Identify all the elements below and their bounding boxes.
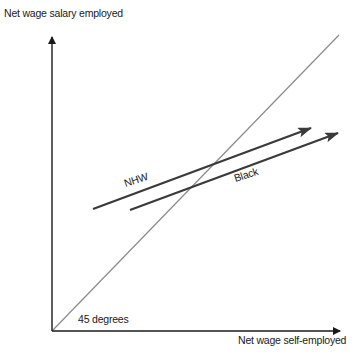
x-axis-label: Net wage self-employed	[238, 334, 346, 346]
diagram-canvas	[0, 0, 356, 364]
45-degree-label: 45 degrees	[78, 313, 129, 325]
nhw-arrow-line	[93, 128, 311, 209]
y-axis-label: Net wage salary employed	[4, 7, 123, 19]
45-degree-line	[52, 35, 339, 331]
wage-diagram: Net wage salary employed Net wage self-e…	[0, 0, 356, 364]
